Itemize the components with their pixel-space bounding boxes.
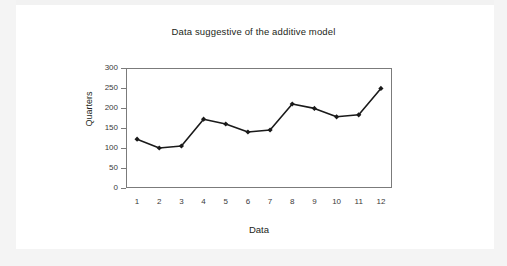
data-point-marker — [157, 145, 162, 150]
y-tick-mark — [121, 88, 126, 89]
data-point-marker — [223, 121, 228, 126]
x-tick-label: 1 — [127, 198, 147, 206]
x-tick-label: 12 — [371, 198, 391, 206]
x-tick-label: 9 — [304, 198, 324, 206]
x-axis-title: Data — [126, 224, 392, 235]
x-tick-label: 4 — [194, 198, 214, 206]
data-series-line — [126, 68, 392, 188]
y-tick-label: 0 — [92, 184, 118, 192]
page-margin-bottom — [0, 249, 507, 266]
y-tick-label: 150 — [92, 124, 118, 132]
x-tick-label: 6 — [238, 198, 258, 206]
x-tick-label: 3 — [171, 198, 191, 206]
y-tick-mark — [121, 188, 126, 189]
y-tick-label: 300 — [92, 64, 118, 72]
x-tick-label: 8 — [282, 198, 302, 206]
data-point-marker — [245, 129, 250, 134]
data-point-marker — [312, 106, 317, 111]
y-tick-mark — [121, 108, 126, 109]
x-tick-label: 7 — [260, 198, 280, 206]
y-tick-label: 100 — [92, 144, 118, 152]
data-point-marker — [134, 137, 139, 142]
page-margin-left — [0, 0, 16, 266]
x-tick-label: 11 — [349, 198, 369, 206]
x-tick-label: 10 — [327, 198, 347, 206]
chart-title: Data suggestive of the additive model — [0, 26, 507, 37]
x-tick-label: 5 — [216, 198, 236, 206]
y-tick-mark — [121, 168, 126, 169]
x-tick-label: 2 — [149, 198, 169, 206]
y-tick-label: 250 — [92, 84, 118, 92]
y-tick-mark — [121, 148, 126, 149]
y-tick-mark — [121, 68, 126, 69]
data-point-marker — [334, 114, 339, 119]
y-tick-label: 50 — [92, 164, 118, 172]
y-tick-label: 200 — [92, 104, 118, 112]
page-margin-right — [494, 0, 507, 266]
y-tick-mark — [121, 128, 126, 129]
chart-page: Data suggestive of the additive model Qu… — [0, 0, 507, 266]
